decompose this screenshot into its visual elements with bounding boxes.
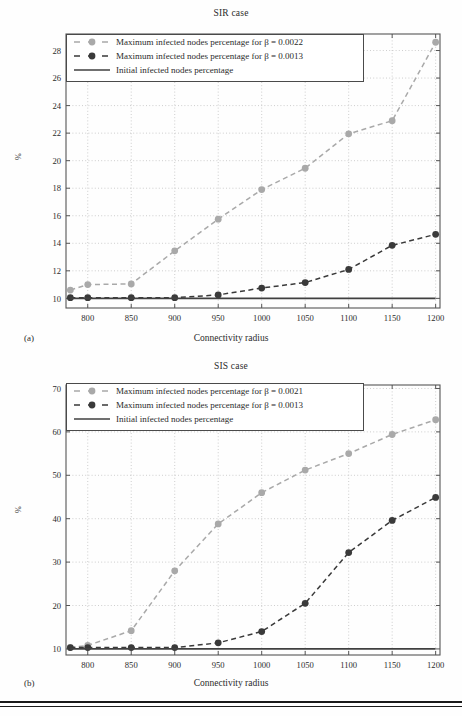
legend-label: Initial infected nodes percentage	[112, 65, 233, 75]
legend-a: Maximum infected nodes percentage for β …	[66, 34, 364, 82]
svg-text:1000: 1000	[253, 313, 270, 323]
chart-title-b: SIS case	[0, 361, 462, 371]
svg-text:950: 950	[212, 660, 225, 670]
svg-text:800: 800	[81, 660, 94, 670]
svg-text:20: 20	[52, 156, 61, 166]
svg-text:24: 24	[52, 101, 61, 111]
legend-label: Maximum infected nodes percentage for β …	[112, 400, 303, 410]
legend-row[interactable]: Maximum infected nodes percentage for β …	[67, 398, 363, 412]
figure-panel-a: SIR case % 80085090095010001050110011501…	[0, 0, 462, 352]
legend-swatch-solid	[72, 412, 112, 426]
x-axis-label-a: Connectivity radius	[0, 333, 462, 343]
svg-text:18: 18	[52, 183, 61, 193]
svg-text:1050: 1050	[297, 313, 314, 323]
svg-text:850: 850	[125, 313, 138, 323]
svg-text:900: 900	[168, 660, 181, 670]
svg-text:26: 26	[52, 73, 61, 83]
legend-row[interactable]: Maximum infected nodes percentage for β …	[67, 35, 363, 49]
legend-swatch-solid	[72, 63, 112, 77]
svg-text:900: 900	[168, 313, 181, 323]
x-axis-label-b: Connectivity radius	[0, 678, 462, 688]
figure-panel-b: SIS case % 80085090095010001050110011501…	[0, 355, 462, 700]
figure-page: SIR case % 80085090095010001050110011501…	[0, 0, 462, 716]
legend-row[interactable]: Maximum infected nodes percentage for β …	[67, 49, 363, 63]
legend-row[interactable]: Maximum infected nodes percentage for β …	[67, 384, 363, 398]
svg-text:1100: 1100	[340, 660, 357, 670]
legend-row[interactable]: Initial infected nodes percentage	[67, 412, 363, 426]
svg-text:16: 16	[52, 211, 61, 221]
svg-text:950: 950	[212, 313, 225, 323]
svg-text:60: 60	[52, 427, 61, 437]
panel-label-a: (a)	[24, 333, 34, 343]
svg-text:20: 20	[52, 601, 61, 611]
svg-text:10: 10	[52, 644, 61, 654]
legend-label: Initial infected nodes percentage	[112, 414, 233, 424]
footer-rule-thin	[0, 706, 462, 707]
svg-text:1200: 1200	[427, 660, 444, 670]
svg-text:1150: 1150	[384, 660, 401, 670]
legend-swatch-dashed-light	[72, 35, 112, 49]
legend-swatch-dashed-dark	[72, 49, 112, 63]
svg-text:850: 850	[125, 660, 138, 670]
svg-text:1200: 1200	[427, 313, 444, 323]
svg-text:800: 800	[81, 313, 94, 323]
legend-label: Maximum infected nodes percentage for β …	[112, 37, 303, 47]
svg-text:28: 28	[52, 46, 61, 56]
legend-row[interactable]: Initial infected nodes percentage	[67, 63, 363, 77]
legend-swatch-dashed-light	[72, 384, 112, 398]
legend-label: Maximum infected nodes percentage for β …	[112, 51, 303, 61]
svg-text:22: 22	[52, 128, 61, 138]
svg-text:1050: 1050	[297, 660, 314, 670]
svg-text:30: 30	[52, 557, 61, 567]
svg-text:10: 10	[52, 294, 61, 304]
legend-b: Maximum infected nodes percentage for β …	[66, 383, 364, 431]
svg-text:1000: 1000	[253, 660, 270, 670]
panel-label-b: (b)	[24, 678, 35, 688]
svg-text:1150: 1150	[384, 313, 401, 323]
svg-text:40: 40	[52, 514, 61, 524]
legend-swatch-dashed-dark	[72, 398, 112, 412]
svg-text:1100: 1100	[340, 313, 357, 323]
svg-text:50: 50	[52, 470, 61, 480]
svg-text:14: 14	[52, 238, 61, 248]
footer-rule-thick	[0, 701, 462, 703]
svg-text:70: 70	[52, 384, 61, 394]
legend-label: Maximum infected nodes percentage for β …	[112, 386, 303, 396]
svg-text:12: 12	[52, 266, 61, 276]
chart-title-a: SIR case	[0, 8, 462, 18]
